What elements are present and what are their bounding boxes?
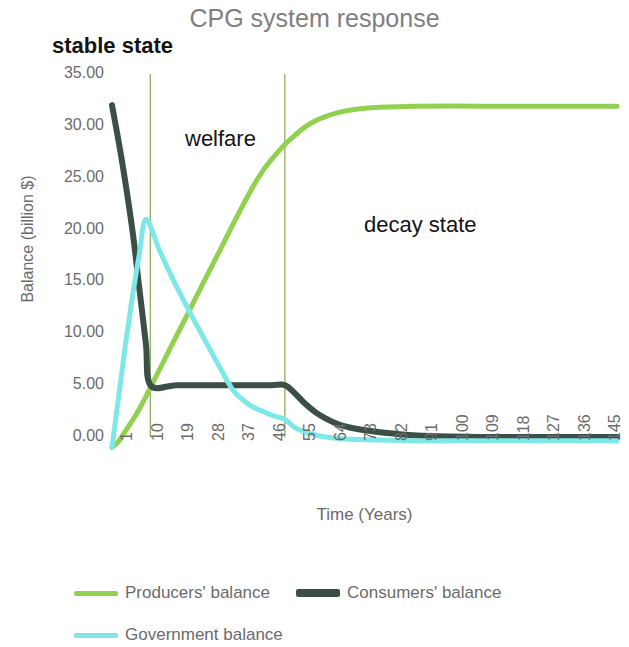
x-axis-tick-label: 37 (240, 423, 258, 441)
x-axis-tick-label: 28 (210, 423, 228, 441)
x-axis-tick-label: 145 (606, 414, 624, 441)
x-axis-tick-label: 91 (423, 423, 441, 441)
legend-item-consumers: Consumers' balance (296, 583, 501, 603)
legend-label-producers: Producers' balance (125, 583, 270, 603)
x-axis-tick-label: 46 (271, 423, 289, 441)
y-axis-tick-label: 35.00 (38, 64, 104, 82)
x-axis-tick-label: 118 (515, 415, 533, 441)
y-axis-tick-label: 20.00 (38, 220, 104, 238)
x-axis-tick-label: 55 (301, 423, 319, 441)
y-axis-tick-label: 5.00 (38, 375, 104, 393)
x-axis-tick-label: 136 (576, 414, 594, 441)
x-axis-tick-label: 73 (362, 423, 380, 441)
plot-svg (112, 74, 617, 437)
chart-figure: CPG system response stable state welfare… (0, 0, 629, 647)
series-line-consumers-balance (112, 105, 617, 437)
x-axis-tick-label: 100 (454, 414, 472, 441)
legend-label-government: Government balance (125, 625, 283, 645)
legend-swatch-government-icon (74, 633, 118, 638)
x-axis-tick-label: 127 (545, 414, 563, 441)
series-line-government-balance (112, 219, 617, 447)
legend-swatch-producers-icon (74, 591, 118, 596)
x-axis-tick-label: 109 (484, 414, 502, 441)
y-axis-tick-label: 30.00 (38, 116, 104, 134)
x-axis-tick-labels: 110192837465564738291100109118127136145 (0, 441, 629, 501)
x-axis-tick-label: 10 (149, 423, 167, 441)
legend-item-producers: Producers' balance (74, 583, 270, 603)
y-axis-title: Balance (billion $) (19, 139, 37, 339)
x-axis-tick-label: 64 (332, 423, 350, 441)
x-axis-title: Time (Years) (112, 505, 617, 525)
legend-label-consumers: Consumers' balance (347, 583, 501, 603)
x-axis-tick-label: 19 (179, 423, 197, 441)
y-axis-tick-label: 25.00 (38, 168, 104, 186)
y-axis-tick-label: 10.00 (38, 323, 104, 341)
x-axis-tick-label: 82 (393, 423, 411, 441)
y-axis-tick-label: 15.00 (38, 271, 104, 289)
series-line-producers-balance (112, 106, 617, 447)
chart-legend: Producers' balance Consumers' balance Go… (74, 575, 614, 645)
y-axis-tick-labels: 0.005.0010.0015.0020.0025.0030.0035.00 (38, 0, 104, 647)
legend-swatch-consumers-icon (296, 589, 340, 597)
plot-area (112, 74, 617, 437)
x-axis-tick-label: 1 (118, 432, 136, 441)
legend-item-government: Government balance (74, 625, 283, 645)
